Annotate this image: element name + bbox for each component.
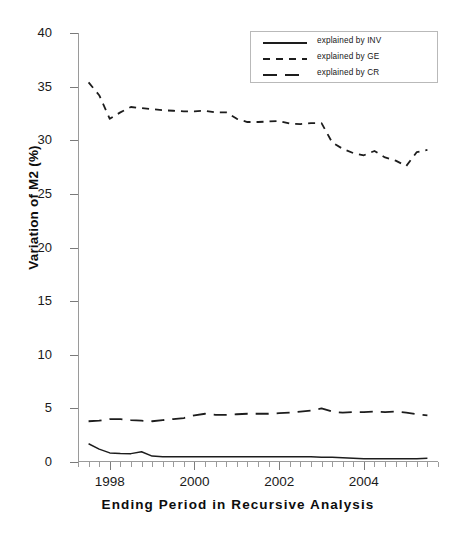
x-tick [120, 462, 121, 467]
x-tick [142, 462, 143, 467]
x-tick [258, 462, 259, 467]
y-tick-10 [70, 355, 78, 356]
y-tick-label-25: 25 [12, 187, 52, 200]
legend: explained by INV explained by GE explain… [250, 31, 438, 83]
x-tick [396, 462, 397, 467]
y-tick-5 [70, 408, 78, 409]
x-tick [78, 462, 79, 467]
series-lines [78, 33, 438, 462]
series-line-explained-by-cr [89, 408, 428, 421]
x-tick [226, 462, 227, 467]
x-tick [152, 462, 153, 467]
legend-item-inv: explained by INV [251, 35, 437, 51]
plot-area: 0510152025303540 1998200020022004 [78, 33, 438, 462]
x-tick [332, 462, 333, 467]
x-tick [417, 462, 418, 467]
y-tick-0 [70, 462, 78, 463]
x-tick [438, 462, 439, 467]
x-tick [216, 462, 217, 467]
legend-item-cr: explained by CR [251, 67, 437, 83]
x-axis-title: Ending Period in Recursive Analysis [0, 497, 476, 512]
x-tick [343, 462, 344, 467]
x-tick [406, 462, 407, 467]
y-tick-label-40: 40 [12, 26, 52, 39]
y-tick-label-10: 10 [12, 348, 52, 361]
x-tick [269, 462, 270, 467]
x-tick [131, 462, 132, 467]
legend-label-cr: explained by CR [317, 68, 379, 77]
x-tick [300, 462, 301, 467]
x-tick [184, 462, 185, 467]
y-tick-label-35: 35 [12, 80, 52, 93]
y-tick-35 [70, 87, 78, 88]
y-tick-15 [70, 301, 78, 302]
x-tick-major-2002 [279, 462, 280, 470]
y-tick-label-5: 5 [12, 401, 52, 414]
y-tick-20 [70, 248, 78, 249]
x-tick [374, 462, 375, 467]
series-line-explained-by-inv [89, 444, 428, 459]
x-tick [385, 462, 386, 467]
x-tick-label-2004: 2004 [329, 474, 399, 489]
legend-label-ge: explained by GE [317, 52, 379, 61]
x-tick-label-1998: 1998 [75, 474, 145, 489]
x-tick-label-2000: 2000 [159, 474, 229, 489]
x-tick [173, 462, 174, 467]
x-tick [247, 462, 248, 467]
x-tick [290, 462, 291, 467]
y-tick-30 [70, 140, 78, 141]
x-tick-major-2004 [364, 462, 365, 470]
x-tick-label-2002: 2002 [244, 474, 314, 489]
y-tick-label-30: 30 [12, 133, 52, 146]
x-tick [427, 462, 428, 467]
x-tick [205, 462, 206, 467]
x-tick [237, 462, 238, 467]
x-tick [322, 462, 323, 467]
solid-line-sample-icon [263, 42, 307, 44]
x-tick [163, 462, 164, 467]
series-line-explained-by-ge [89, 82, 428, 166]
x-tick-major-2000 [194, 462, 195, 470]
y-tick-label-15: 15 [12, 294, 52, 307]
x-tick [353, 462, 354, 467]
y-tick-25 [70, 194, 78, 195]
long-dashed-line-sample-icon [263, 74, 307, 76]
x-tick [99, 462, 100, 467]
short-dashed-line-sample-icon [263, 58, 307, 60]
legend-item-ge: explained by GE [251, 51, 437, 67]
x-tick-major-1998 [110, 462, 111, 470]
y-tick-label-20: 20 [12, 241, 52, 254]
x-tick [89, 462, 90, 467]
y-tick-label-0: 0 [12, 455, 52, 468]
y-tick-40 [70, 33, 78, 34]
y-axis-title: Variation of M2 (%) [26, 98, 41, 318]
legend-label-inv: explained by INV [317, 36, 381, 45]
x-tick [311, 462, 312, 467]
figure-m2-variation: Variation of M2 (%) Ending Period in Rec… [0, 0, 476, 538]
